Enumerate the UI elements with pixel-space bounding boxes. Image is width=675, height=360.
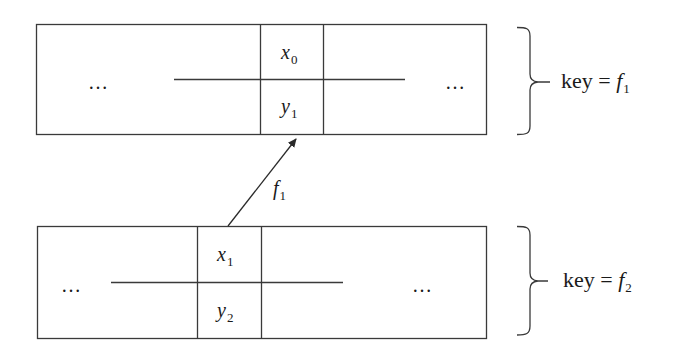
top-key-label: key = f1: [561, 70, 630, 92]
arrow-label-var: f: [273, 177, 279, 199]
top-cell-y1: y1: [281, 96, 297, 116]
bottom-key-label: key = f2: [563, 269, 632, 291]
top-right-ellipsis: …: [445, 72, 466, 92]
top-brace-icon: [517, 28, 550, 135]
arrow-label: f1: [273, 178, 286, 198]
bottom-cell-x1-sub: 1: [227, 254, 234, 269]
bottom-cell-y2-sub: 2: [227, 310, 234, 325]
bottom-cell-y2: y2: [217, 300, 233, 320]
bottom-brace-icon: [517, 227, 548, 336]
bottom-key-sub: 2: [625, 280, 632, 295]
top-key-prefix: key =: [561, 68, 616, 93]
top-cell-y1-var: y: [281, 95, 290, 117]
top-left-ellipsis: …: [88, 72, 109, 92]
top-key-sub: 1: [623, 81, 630, 96]
arrow-label-sub: 1: [280, 188, 287, 203]
diagram-canvas: [0, 0, 675, 360]
bottom-cell-y2-var: y: [217, 299, 226, 321]
top-cell-x0-var: x: [281, 41, 290, 63]
top-key-var: f: [616, 68, 622, 93]
bottom-cell-x1-var: x: [217, 243, 226, 265]
top-cell-x0: x0: [281, 42, 297, 62]
top-cell-y1-sub: 1: [291, 106, 298, 121]
bottom-left-ellipsis: …: [61, 275, 82, 295]
bottom-key-prefix: key =: [563, 267, 618, 292]
bottom-cell-x1: x1: [217, 244, 233, 264]
bottom-key-var: f: [618, 267, 624, 292]
bottom-right-ellipsis: …: [412, 275, 433, 295]
top-cell-x0-sub: 0: [291, 52, 298, 67]
